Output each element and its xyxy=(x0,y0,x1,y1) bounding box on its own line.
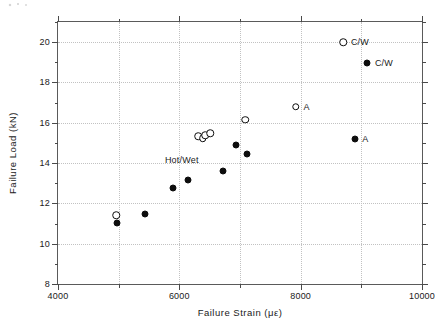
data-point-filled xyxy=(184,176,191,183)
y-tick-label: 18 xyxy=(40,77,50,87)
x-tick-major xyxy=(179,284,180,290)
y-tick-major xyxy=(52,163,58,164)
y-tick-label: 14 xyxy=(40,158,50,168)
x-tick-minor xyxy=(361,284,362,288)
data-point-filled xyxy=(351,135,358,142)
gridline-vertical xyxy=(240,22,241,284)
gridline-vertical xyxy=(361,22,362,284)
y-tick-minor xyxy=(55,103,59,104)
y-tick-minor-right xyxy=(422,264,426,265)
y-tick-label: 20 xyxy=(40,37,50,47)
y-tick-major-right xyxy=(422,82,428,83)
y-tick-major xyxy=(52,42,58,43)
data-point-open xyxy=(112,211,120,219)
data-point-open xyxy=(339,38,347,46)
data-point-label: A xyxy=(304,102,310,112)
x-tick-major xyxy=(58,284,59,290)
y-tick-minor-right xyxy=(422,103,426,104)
data-point-label: C/W xyxy=(375,58,393,68)
y-tick-label: 12 xyxy=(40,198,50,208)
gridline-vertical xyxy=(119,22,120,284)
data-point-label: C/W xyxy=(351,37,369,47)
data-point-open xyxy=(242,116,250,124)
x-tick-minor xyxy=(240,284,241,288)
y-tick-minor-right xyxy=(422,62,426,63)
y-tick-minor-right xyxy=(422,22,426,23)
y-tick-label: 8 xyxy=(45,279,50,289)
x-tick-minor-top xyxy=(361,19,362,23)
scatter-plot-figure: Failure Load (kN) Failure Strain (με) 81… xyxy=(0,0,446,331)
x-tick-label: 10000 xyxy=(409,291,435,301)
plot-area: 810121416182040006000800010000Hot/WetAC/… xyxy=(57,21,423,285)
x-tick-major-top xyxy=(301,16,302,22)
data-point-filled xyxy=(141,211,148,218)
y-tick-label: 10 xyxy=(40,239,50,249)
x-tick-minor-top xyxy=(240,19,241,23)
data-point-filled xyxy=(169,185,176,192)
x-tick-label: 8000 xyxy=(290,291,311,301)
x-tick-major xyxy=(301,284,302,290)
x-tick-major-top xyxy=(179,16,180,22)
data-point-filled xyxy=(364,60,371,67)
plot-annotation: Hot/Wet xyxy=(165,155,199,165)
x-tick-minor xyxy=(119,284,120,288)
data-point-filled xyxy=(232,141,239,148)
data-point-filled xyxy=(220,167,227,174)
x-tick-label: 6000 xyxy=(169,291,190,301)
x-tick-label: 4000 xyxy=(48,291,69,301)
y-tick-minor-right xyxy=(422,183,426,184)
y-tick-major xyxy=(52,82,58,83)
x-axis-title: Failure Strain (με) xyxy=(198,307,283,318)
y-tick-major xyxy=(52,244,58,245)
x-tick-major-top xyxy=(422,16,423,22)
data-point-label: A xyxy=(362,134,368,144)
y-tick-major xyxy=(52,203,58,204)
y-tick-minor xyxy=(55,183,59,184)
y-tick-minor xyxy=(55,143,59,144)
x-tick-major xyxy=(422,284,423,290)
y-tick-major-right xyxy=(422,203,428,204)
data-point-open xyxy=(292,103,300,111)
gridline-vertical xyxy=(179,22,180,284)
data-point-open xyxy=(207,130,215,138)
y-tick-major-right xyxy=(422,163,428,164)
y-tick-label: 16 xyxy=(40,118,50,128)
y-axis-title: Failure Load (kN) xyxy=(7,112,18,194)
x-tick-minor-top xyxy=(119,19,120,23)
y-tick-minor xyxy=(55,22,59,23)
gridline-vertical xyxy=(301,22,302,284)
y-tick-major-right xyxy=(422,123,428,124)
y-tick-major-right xyxy=(422,42,428,43)
y-tick-minor-right xyxy=(422,224,426,225)
y-tick-major xyxy=(52,123,58,124)
data-point-filled xyxy=(243,151,250,158)
y-tick-minor xyxy=(55,224,59,225)
y-tick-major-right xyxy=(422,244,428,245)
y-tick-minor-right xyxy=(422,143,426,144)
y-tick-minor xyxy=(55,62,59,63)
x-tick-major-top xyxy=(58,16,59,22)
data-point-filled xyxy=(113,220,120,227)
y-tick-minor xyxy=(55,264,59,265)
scan-artifact-speckle xyxy=(6,2,32,8)
